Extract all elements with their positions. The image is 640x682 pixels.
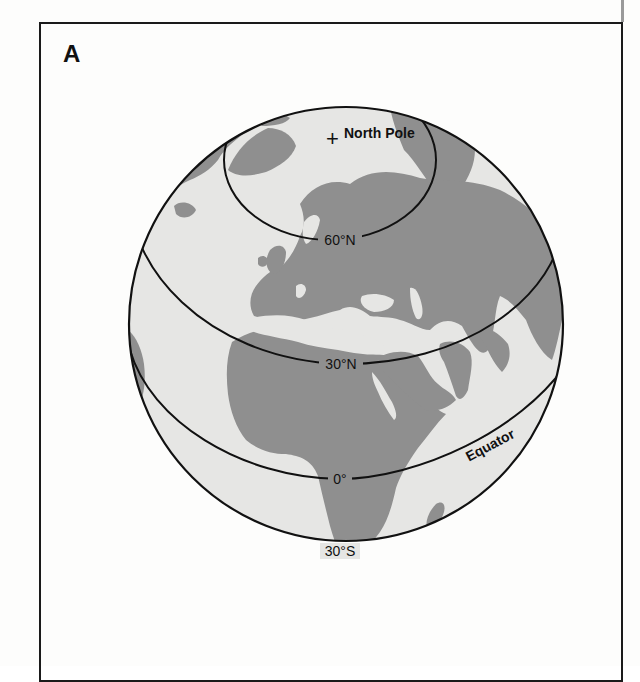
latitude-0-label: 0° [333,471,346,487]
latitude-30s-label: 30°S [325,543,356,559]
land-arctic-top [250,80,360,104]
latitude-60n-label: 60°N [324,232,355,248]
north-pole-label: North Pole [344,125,415,141]
north-pole-marker: + [326,126,339,151]
latitude-30n-label: 30°N [325,356,356,372]
